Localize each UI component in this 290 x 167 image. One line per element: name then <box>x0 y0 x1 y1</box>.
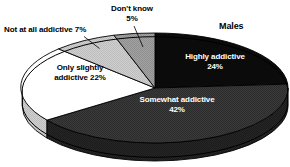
slice-label-dont-know-line2: 5% <box>126 14 137 23</box>
slice-label-highly-addictive-line2: 24% <box>207 62 223 71</box>
pie-chart-container: Not at all addictive 7% Don't know 5% Ma… <box>0 0 290 167</box>
slice-label-highly-addictive-line1: Highly addictive <box>185 52 245 61</box>
pie-top-surface-group <box>21 33 288 143</box>
slice-label-dont-know: Don't know 5% <box>108 4 156 23</box>
slice-label-somewhat-addictive-line2: 42% <box>169 105 185 114</box>
slice-label-only-slightly-addictive-line2: addictive 22% <box>54 73 106 82</box>
chart-title: Males <box>219 22 244 32</box>
slice-label-only-slightly-addictive-line1: Only slightly <box>57 63 104 72</box>
slice-label-only-slightly-addictive: Only slightly addictive 22% <box>44 63 116 82</box>
slice-label-not-at-all-addictive: Not at all addictive 7% <box>4 25 86 35</box>
slice-label-somewhat-addictive: Somewhat addictive 42% <box>130 95 224 114</box>
slice-label-highly-addictive: Highly addictive 24% <box>173 52 257 71</box>
slice-label-somewhat-addictive-line1: Somewhat addictive <box>139 95 214 104</box>
slice-label-dont-know-line1: Don't know <box>111 4 153 13</box>
